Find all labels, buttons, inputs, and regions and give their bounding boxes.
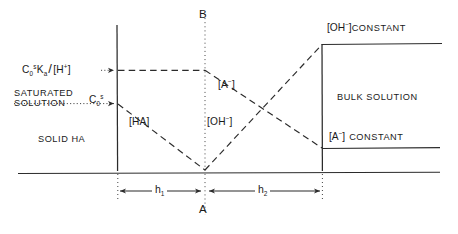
point-b-label: B [199,8,207,20]
diagram-canvas: C0sKa/[H+] SATURATED SOLUTION C0s SOLID … [0,0,458,234]
left-wall-line [117,25,118,171]
oh-bracket: [OH−] [327,22,352,33]
oh-constant-label: [OH−]CONSTANT [327,22,406,34]
c0s-ka-symbol: C0sKa [22,64,47,75]
c0s-saturation-label: C0s [89,94,104,105]
upper-concentration-label: C0sKa/[H+] [22,62,71,76]
a-minus-concentration-label: [A−] [218,79,235,90]
a-constant-line [322,148,440,149]
bulk-solution-label: BULK SOLUTION [337,93,418,103]
h2-label: h2 [255,184,270,195]
a-constant-label: [A−]CONSTANT [329,131,403,143]
point-a-label: A [199,203,207,215]
oh-constant-line [322,44,442,45]
a-constant-text: CONSTANT [345,132,403,142]
oh-minus-concentration-label: [OH−] [207,116,233,127]
a-bracket: [A−] [329,131,345,142]
baseline-axis [18,172,440,173]
oh-minus-ascending-dashed [205,45,322,171]
proton-bracket: [H+] [53,64,71,75]
saturated-solution-label: SATURATED SOLUTION [14,89,73,109]
solid-ha-label: SOLID HA [38,135,85,145]
ha-descending-dashed [118,104,205,170]
ha-concentration-label: [HA] [129,116,150,127]
h1-label: h1 [152,184,167,195]
oh-constant-text: CONSTANT [352,23,406,33]
